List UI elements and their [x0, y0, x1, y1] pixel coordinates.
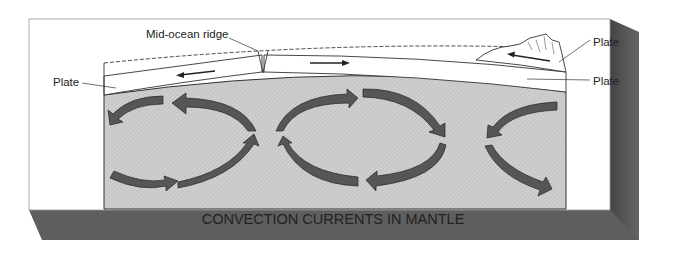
label-plate-right-top: Plate — [593, 36, 619, 48]
label-plate-right-bottom: Plate — [593, 75, 619, 87]
convection-diagram: Mid-ocean ridge Plate Plate Plate CONVEC… — [0, 0, 682, 261]
label-plate-left: Plate — [53, 76, 79, 88]
label-mid-ocean-ridge: Mid-ocean ridge — [146, 28, 228, 40]
diagram-title: CONVECTION CURRENTS IN MANTLE — [202, 211, 465, 227]
